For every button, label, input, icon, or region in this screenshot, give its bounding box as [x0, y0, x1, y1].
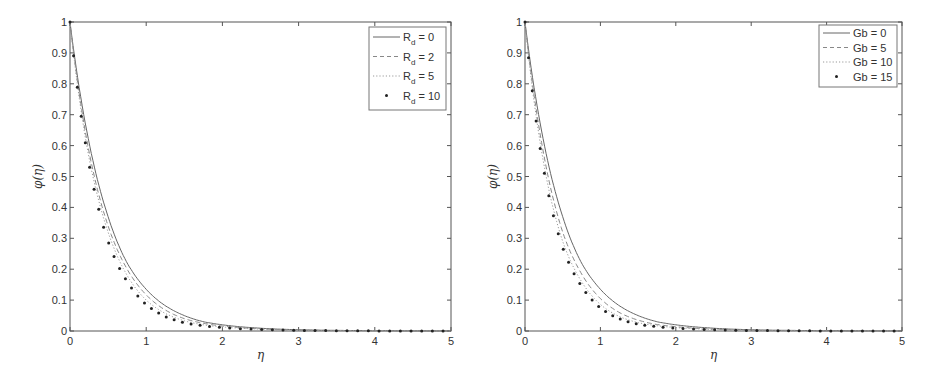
- legend-entry: Gb = 5: [853, 42, 886, 54]
- chart-right-gb: 01234500.10.20.30.40.50.60.70.80.91ηφ(η)…: [455, 0, 923, 378]
- y-tick-label: 0.1: [52, 294, 67, 306]
- y-axis-label: φ(η): [31, 164, 45, 189]
- chart-left-radiation: 01234500.10.20.30.40.50.60.70.80.91ηφ(η)…: [0, 0, 468, 378]
- plot-area: 01234500.10.20.30.40.50.60.70.80.91ηφ(η)…: [455, 0, 937, 378]
- y-tick-label: 0: [61, 325, 67, 337]
- y-tick-label: 0.6: [52, 140, 67, 152]
- y-tick-label: 0.3: [52, 232, 67, 244]
- legend-entry: Gb = 10: [853, 56, 892, 68]
- x-tick-label: 5: [448, 335, 454, 347]
- legend: Gb = 0Gb = 5Gb = 10Gb = 15: [819, 25, 897, 87]
- y-tick-label: 0.5: [507, 171, 522, 183]
- x-tick-label: 2: [219, 335, 225, 347]
- y-tick-label: 0.9: [52, 47, 67, 59]
- x-axis-label: η: [710, 348, 718, 362]
- x-tick-label: 4: [372, 335, 378, 347]
- legend-entry: Gb = 0: [853, 27, 886, 39]
- x-tick-label: 1: [597, 335, 603, 347]
- legend: Rd = 0Rd = 2Rd = 5Rd = 10: [369, 27, 446, 110]
- x-tick-label: 2: [673, 335, 679, 347]
- y-tick-label: 0: [516, 325, 522, 337]
- y-tick-label: 0.5: [52, 171, 67, 183]
- x-tick-label: 0: [67, 335, 73, 347]
- y-tick-label: 1: [516, 16, 522, 28]
- y-tick-label: 0.8: [507, 78, 522, 90]
- legend-entry: Gb = 15: [853, 71, 892, 83]
- y-tick-label: 0.4: [52, 201, 67, 213]
- x-tick-label: 0: [522, 335, 528, 347]
- x-tick-label: 5: [899, 335, 905, 347]
- plot-area: 01234500.10.20.30.40.50.60.70.80.91ηφ(η)…: [0, 0, 468, 378]
- x-tick-label: 3: [748, 335, 754, 347]
- y-tick-label: 0.7: [52, 109, 67, 121]
- y-tick-label: 0.4: [507, 201, 522, 213]
- y-tick-label: 1: [61, 16, 67, 28]
- y-tick-label: 0.9: [507, 47, 522, 59]
- y-tick-label: 0.8: [52, 78, 67, 90]
- y-axis-label: φ(η): [486, 164, 500, 189]
- y-tick-label: 0.2: [507, 263, 522, 275]
- x-axis-label: η: [257, 348, 265, 362]
- y-tick-label: 0.7: [507, 109, 522, 121]
- y-tick-label: 0.1: [507, 294, 522, 306]
- y-tick-label: 0.6: [507, 140, 522, 152]
- x-tick-label: 3: [296, 335, 302, 347]
- y-tick-label: 0.3: [507, 232, 522, 244]
- x-tick-label: 1: [143, 335, 149, 347]
- y-tick-label: 0.2: [52, 263, 67, 275]
- x-tick-label: 4: [824, 335, 830, 347]
